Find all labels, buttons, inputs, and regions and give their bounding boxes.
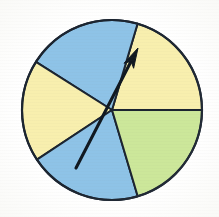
spinner-chart [0,0,219,217]
spinner-figure [0,0,219,217]
